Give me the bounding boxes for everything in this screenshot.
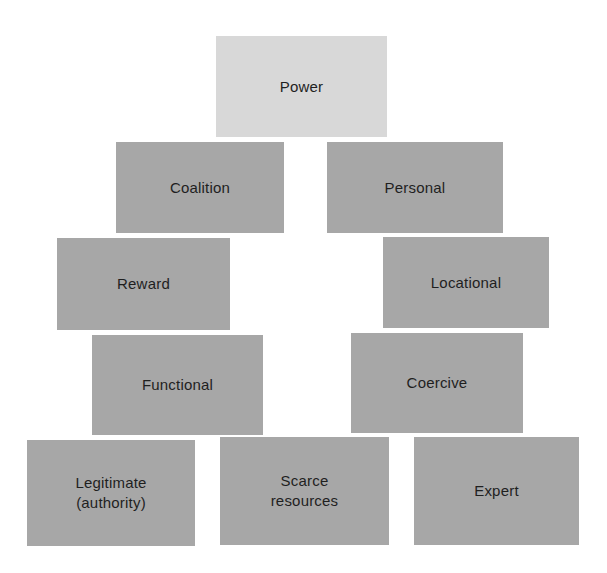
node-coercive: Coercive: [351, 333, 523, 433]
node-locational: Locational: [383, 237, 549, 328]
node-label: Coercive: [407, 373, 468, 393]
node-label: Power: [280, 77, 324, 97]
node-functional: Functional: [92, 335, 263, 435]
node-label: Scarce resources: [271, 471, 339, 511]
node-label: Personal: [385, 178, 446, 198]
node-expert: Expert: [414, 437, 579, 545]
node-label: Legitimate (authority): [75, 473, 146, 513]
node-personal: Personal: [327, 142, 503, 233]
node-label: Locational: [431, 273, 501, 293]
node-label: Reward: [117, 274, 170, 294]
node-scarce-resources: Scarce resources: [220, 437, 389, 545]
node-label: Coalition: [170, 178, 230, 198]
node-label: Functional: [142, 375, 213, 395]
node-legitimate: Legitimate (authority): [27, 440, 195, 546]
node-coalition: Coalition: [116, 142, 284, 233]
node-reward: Reward: [57, 238, 230, 330]
node-label: Expert: [474, 481, 519, 501]
node-power: Power: [216, 36, 387, 137]
